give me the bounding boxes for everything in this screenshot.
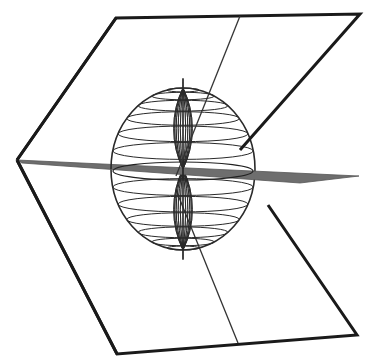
geometry-diagram (0, 0, 376, 364)
left-vertex-edge-lower (17, 160, 117, 354)
sphere-upper-hemisphere (111, 78, 255, 178)
left-vertex-edge (17, 18, 116, 160)
